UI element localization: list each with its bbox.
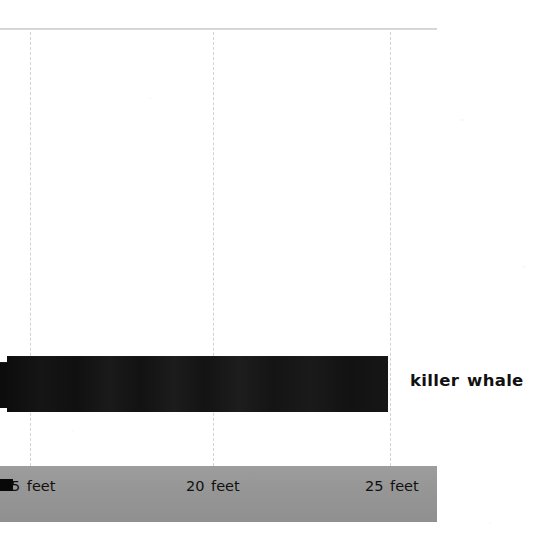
tick-label-5-feet: 5 feet — [11, 478, 55, 494]
bar-killer-whale — [7, 356, 388, 412]
gridline-25-feet — [390, 32, 392, 466]
paper-texture-overlay — [0, 0, 557, 545]
tick-label-20-feet: 20 feet — [186, 478, 240, 494]
chart-figure: killer whale 5 feet 20 feet 25 feet — [0, 0, 557, 545]
chart-top-rule — [0, 28, 437, 30]
tick-label-25-feet: 25 feet — [365, 478, 419, 494]
series-label-killer-whale: killer whale — [410, 371, 524, 390]
axis-band — [0, 466, 437, 522]
